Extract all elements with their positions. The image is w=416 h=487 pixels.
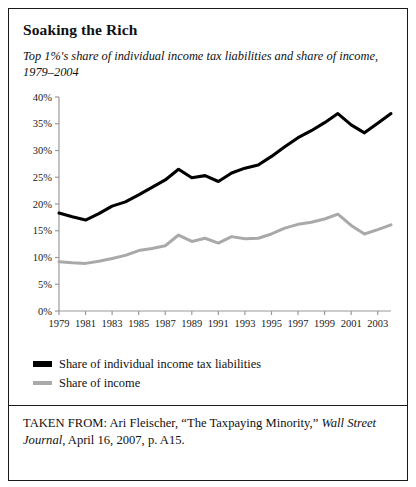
source-prefix: TAKEN FROM: Ari Fleischer, “The Taxpayin… [23,416,321,430]
line-chart: 0%5%10%15%20%25%30%35%40%197919811983198… [21,91,395,341]
svg-text:30%: 30% [33,145,53,156]
svg-text:40%: 40% [33,91,53,102]
svg-text:0%: 0% [38,305,52,316]
svg-text:1981: 1981 [75,318,96,329]
svg-text:15%: 15% [33,225,53,236]
legend-label-tax-liabilities: Share of individual income tax liabiliti… [59,357,261,372]
svg-text:1999: 1999 [314,318,335,329]
svg-text:1985: 1985 [128,318,149,329]
figure-subtitle: Top 1%'s share of individual income tax … [23,48,383,81]
legend-label-income: Share of income [59,376,140,391]
chart-container: 0%5%10%15%20%25%30%35%40%197919811983198… [21,91,395,341]
legend-swatch-icon-dark [33,361,52,367]
page-title: Soaking the Rich [23,21,395,39]
figure-page: Soaking the Rich Top 1%'s share of indiv… [0,0,416,487]
svg-text:1987: 1987 [155,318,176,329]
svg-text:25%: 25% [33,172,53,183]
svg-text:1995: 1995 [261,318,282,329]
svg-text:1983: 1983 [102,318,123,329]
svg-text:2001: 2001 [341,318,362,329]
svg-text:5%: 5% [38,279,52,290]
svg-text:35%: 35% [33,118,53,129]
svg-text:1997: 1997 [288,318,309,329]
svg-text:1979: 1979 [49,318,70,329]
svg-text:1991: 1991 [208,318,229,329]
svg-text:1989: 1989 [181,318,202,329]
svg-text:1993: 1993 [234,318,255,329]
source-suffix: , April 16, 2007, p. A15. [62,433,184,447]
svg-text:10%: 10% [33,252,53,263]
svg-text:2003: 2003 [367,318,388,329]
legend-swatch-icon-gray [33,381,52,386]
figure-frame: Soaking the Rich Top 1%'s share of indiv… [8,8,408,481]
legend-item-tax-liabilities: Share of individual income tax liabiliti… [33,357,395,372]
legend-item-income: Share of income [33,376,395,391]
chart-legend: Share of individual income tax liabiliti… [33,357,395,391]
svg-text:20%: 20% [33,198,53,209]
source-citation: TAKEN FROM: Ari Fleischer, “The Taxpayin… [21,406,395,450]
